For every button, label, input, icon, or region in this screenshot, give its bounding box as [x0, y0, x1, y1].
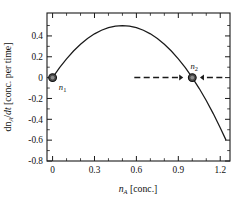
flow-arrow-right-head — [200, 75, 204, 81]
y-axis-label-numerator: dn — [2, 122, 13, 132]
fixed-point-markers: n1n2 — [49, 61, 198, 93]
y-tick-label: -0.2 — [28, 94, 43, 104]
x-axis-tick-labels: 00.30.60.91.2 — [50, 165, 226, 175]
x-tick-label: 0 — [50, 165, 55, 175]
y-tick-label: 0.4 — [31, 31, 43, 41]
y-axis-label-unit: [conc. per time] — [2, 43, 13, 105]
marker-n1-inner — [51, 76, 55, 80]
y-axis-major-ticks — [47, 36, 230, 161]
plot-frame — [47, 13, 230, 161]
marker-n2-inner — [190, 76, 194, 80]
y-axis-minor-ticks — [47, 26, 230, 151]
y-tick-label: 0 — [38, 73, 43, 83]
y-tick-label: -0.8 — [28, 156, 43, 166]
x-axis-minor-ticks — [67, 13, 207, 161]
data-series-curve — [53, 26, 226, 140]
svg-text:dnA/dt [conc. per time]: dnA/dt [conc. per time] — [2, 43, 14, 132]
x-axis-label-unit: [conc.] — [130, 183, 157, 194]
x-tick-label: 1.2 — [214, 165, 226, 175]
x-tick-label: 0.9 — [173, 165, 185, 175]
marker-label-subscript: 2 — [195, 65, 198, 72]
y-axis-tick-labels: 0.40.20-0.2-0.4-0.6-0.8 — [28, 31, 43, 166]
chart-figure: 00.30.60.91.2 0.40.20-0.2-0.4-0.6-0.8 n1… — [0, 0, 239, 199]
x-axis-label: nA [conc.] — [119, 183, 158, 195]
marker-label-n2: n2 — [191, 61, 199, 72]
svg-text:nA [conc.]: nA [conc.] — [119, 183, 158, 195]
y-tick-label: -0.4 — [28, 115, 43, 125]
marker-label-n1: n1 — [59, 82, 66, 93]
y-tick-label: -0.6 — [28, 135, 43, 145]
flow-arrows — [134, 75, 222, 81]
marker-label-subscript: 1 — [63, 86, 66, 93]
y-axis-label: dnA/dt [conc. per time] — [2, 43, 14, 132]
y-tick-label: 0.2 — [31, 52, 43, 62]
flow-arrow-left-head — [179, 75, 183, 81]
chart-svg: 00.30.60.91.2 0.40.20-0.2-0.4-0.6-0.8 n1… — [0, 0, 239, 199]
x-axis-major-ticks — [53, 13, 221, 161]
x-tick-label: 0.3 — [89, 165, 101, 175]
x-tick-label: 0.6 — [131, 165, 143, 175]
